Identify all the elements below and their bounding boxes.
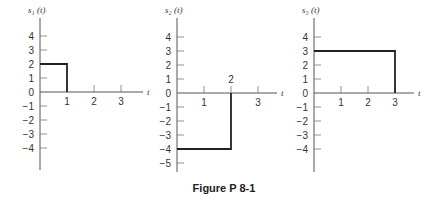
x-axis-title: t	[418, 88, 421, 98]
x-tick-label: 3	[118, 96, 124, 107]
y-tick-label: −3	[297, 130, 309, 141]
x-tick-label: 2	[91, 96, 97, 107]
figure-canvas: s₁ (t)t43210−1−2−3−4123 s₂ (t)t43210−1−2…	[0, 0, 441, 203]
y-tick-label: 3	[302, 46, 308, 57]
y-tick-label: −5	[160, 158, 172, 169]
y-tick-label: 0	[28, 87, 34, 98]
y-tick-label: 4	[165, 32, 171, 43]
y-tick-label: 3	[165, 46, 171, 57]
y-tick-label: 1	[165, 74, 171, 85]
y-tick-label: −4	[297, 144, 309, 155]
x-tick-label: 2	[365, 97, 371, 108]
y-tick-label: −4	[23, 143, 35, 154]
x-tick-label: 1	[338, 97, 344, 108]
y-tick-label: −2	[297, 116, 309, 127]
x-axis-title: t	[281, 88, 284, 98]
y-tick-label: 0	[165, 88, 171, 99]
y-axis-title: s₃ (t)	[302, 5, 319, 15]
y-tick-label: 4	[302, 32, 308, 43]
plot-s3: s₃ (t)t43210−1−2−3−4123	[297, 5, 421, 172]
y-tick-label: −1	[160, 102, 172, 113]
y-tick-label: 0	[302, 88, 308, 99]
y-tick-label: 1	[302, 74, 308, 85]
figure-caption: Figure P 8-1	[193, 182, 256, 194]
plot-s1: s₁ (t)t43210−1−2−3−4123	[23, 5, 150, 170]
x-axis-title: t	[147, 87, 150, 97]
y-tick-label: −1	[297, 102, 309, 113]
y-tick-label: −4	[160, 144, 172, 155]
y-tick-label: −3	[23, 129, 35, 140]
y-tick-label: −1	[23, 101, 35, 112]
y-axis-title: s₁ (t)	[28, 5, 45, 15]
y-tick-label: 2	[302, 60, 308, 71]
plot-s2: s₂ (t)t43210−1−2−3−4−5123	[160, 5, 284, 172]
x-tick-label: 1	[64, 96, 70, 107]
y-tick-label: −3	[160, 130, 172, 141]
x-tick-label: 3	[255, 97, 261, 108]
y-axis-title: s₂ (t)	[165, 5, 182, 15]
y-tick-label: −2	[23, 115, 35, 126]
y-tick-label: −2	[160, 116, 172, 127]
y-tick-label: 2	[165, 60, 171, 71]
y-tick-label: 2	[28, 59, 34, 70]
x-tick-label: 3	[392, 97, 398, 108]
y-tick-label: 1	[28, 73, 34, 84]
y-tick-label: 4	[28, 31, 34, 42]
x-tick-label: 1	[201, 97, 207, 108]
signal-line	[314, 51, 395, 93]
y-tick-label: 3	[28, 45, 34, 56]
x-tick-label: 2	[228, 74, 234, 85]
